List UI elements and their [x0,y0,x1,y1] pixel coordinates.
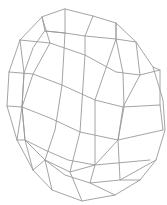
mesh-outline [7,9,165,201]
mesh-column-line [22,17,50,170]
mesh-column-line [153,67,163,130]
mesh-column-line [90,23,116,195]
mesh-column-line [17,40,24,140]
wireframe-figure [0,0,167,205]
disc-wireframe-mesh [0,0,167,205]
mesh-inner-rim [22,31,124,172]
mesh-column-lines [17,9,163,201]
mesh-column-line [70,16,93,201]
mesh-rim-edge [22,31,124,172]
mesh-row-line [7,106,163,140]
mesh-row-line [42,17,65,33]
mesh-outline-edge [7,9,165,201]
